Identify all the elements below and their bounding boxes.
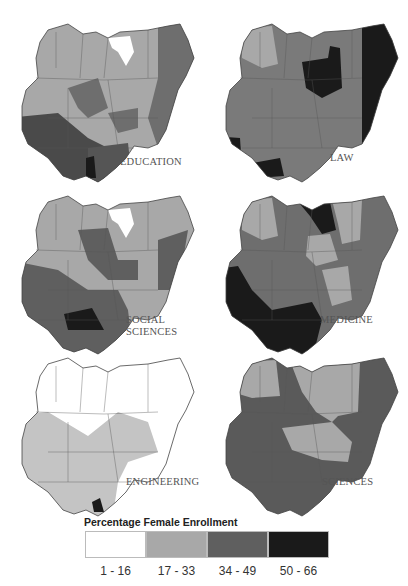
nigeria-map-medicine bbox=[212, 190, 402, 360]
legend-swatch-2 bbox=[146, 531, 207, 558]
map-panel-education: EDUCATION bbox=[8, 18, 198, 188]
nigeria-map-law bbox=[212, 18, 402, 188]
region-northeast bbox=[362, 18, 402, 148]
panel-label: EDUCATION bbox=[120, 156, 182, 168]
panel-label: LAW bbox=[330, 152, 354, 164]
legend-label-4: 50 - 66 bbox=[268, 564, 329, 578]
legend-label-2: 17 - 33 bbox=[146, 564, 207, 578]
region-northwest bbox=[232, 360, 280, 398]
panel-label: MEDICINE bbox=[320, 314, 373, 326]
nigeria-map-engineering bbox=[8, 352, 198, 522]
legend-swatches bbox=[85, 531, 329, 558]
map-panel-social-sciences: SOCIAL SCIENCES bbox=[8, 190, 198, 360]
legend-swatch-4 bbox=[268, 531, 329, 558]
region-lagos bbox=[212, 136, 242, 168]
map-panel-law: LAW bbox=[212, 18, 402, 188]
nigeria-map-sciences bbox=[212, 352, 402, 522]
legend-swatch-3 bbox=[207, 531, 268, 558]
map-panel-sciences: SCIENCES bbox=[212, 352, 402, 522]
legend-label-1: 1 - 16 bbox=[85, 564, 146, 578]
region-east bbox=[158, 230, 188, 290]
legend-label-3: 34 - 49 bbox=[207, 564, 268, 578]
map-panel-engineering: ENGINEERING bbox=[8, 352, 198, 522]
legend-labels: 1 - 16 17 - 33 34 - 49 50 - 66 bbox=[85, 564, 329, 578]
panel-label: SOCIAL SCIENCES bbox=[126, 314, 177, 338]
legend-title: Percentage Female Enrollment bbox=[84, 516, 237, 528]
legend: Percentage Female Enrollment 1 - 16 17 -… bbox=[60, 516, 360, 582]
panel-label: SCIENCES bbox=[322, 476, 373, 488]
legend-swatch-1 bbox=[85, 531, 146, 558]
panel-label: ENGINEERING bbox=[126, 476, 199, 488]
map-panel-medicine: MEDICINE bbox=[212, 190, 402, 360]
